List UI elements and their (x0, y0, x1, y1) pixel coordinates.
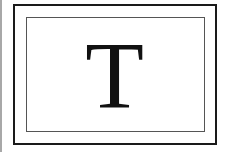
letter-t-glyph: T (85, 28, 144, 124)
text-tool-icon[interactable]: T (26, 17, 203, 130)
left-edge-divider (0, 0, 2, 152)
